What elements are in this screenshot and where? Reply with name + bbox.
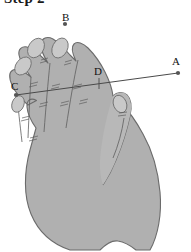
figure-container: Step 2 (0, 0, 191, 252)
point-label-b: B (62, 12, 69, 23)
hand-outline-path (10, 38, 161, 250)
point-dot-c[interactable] (14, 93, 18, 97)
hand-diagram-svg (0, 0, 191, 252)
point-label-c: C (11, 81, 18, 92)
point-label-d: D (94, 66, 102, 77)
point-label-a: A (172, 56, 180, 67)
point-dot-a[interactable] (176, 71, 180, 75)
hand-shape (9, 35, 160, 250)
